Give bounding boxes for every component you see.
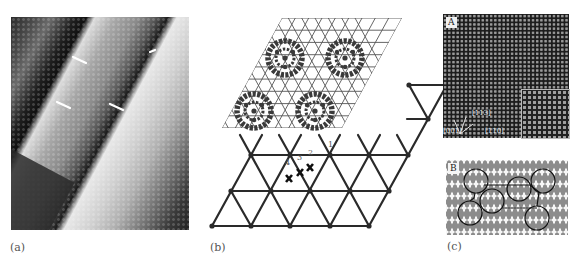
molecule-outline-icon <box>531 169 555 193</box>
molecule-outline-icon <box>480 189 504 213</box>
model-b-overlay <box>0 0 579 264</box>
molecule-outline-icon <box>458 201 482 225</box>
panel-label-c: (c) <box>447 240 462 253</box>
molecule-outline-icon <box>507 177 531 201</box>
molecule-outline-icon <box>464 169 488 193</box>
molecule-outline-icon <box>525 206 549 230</box>
